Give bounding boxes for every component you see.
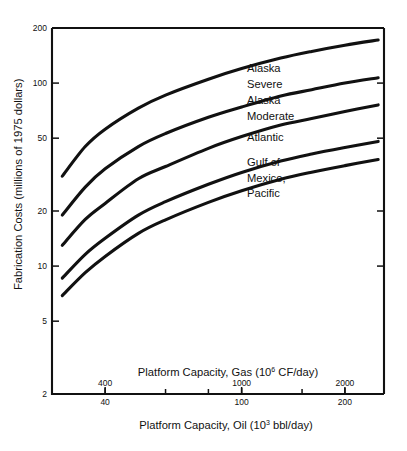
y-tick-label: 20 bbox=[38, 206, 48, 216]
curve-label-alaska-moderate-line2: Moderate bbox=[247, 110, 294, 122]
x-axis-gas-title: Platform Capacity, Gas (106 CF/day) bbox=[138, 366, 319, 378]
x-axis-oil-title-main: Platform Capacity, Oil (10 bbox=[139, 419, 266, 431]
x-tick-gas-label: 400 bbox=[98, 378, 112, 388]
x-axis-oil-title-tail: bbl/day) bbox=[270, 419, 313, 431]
y-tick-label: 5 bbox=[42, 316, 47, 326]
y-tick-label: 200 bbox=[33, 23, 47, 33]
curve-label-alaska-severe: Alaska bbox=[247, 62, 281, 74]
y-tick-label: 50 bbox=[38, 133, 48, 143]
curve-label-gulf-of-mexico-line2: Mexico, bbox=[247, 172, 286, 184]
y-axis-title: Fabrication Costs (millions of 1975 doll… bbox=[12, 78, 24, 290]
curve-label-atlantic: Atlantic bbox=[247, 131, 284, 143]
x-axis-gas-title-tail: CF/day) bbox=[275, 366, 318, 378]
y-tick-label: 2 bbox=[42, 389, 47, 399]
x-tick-oil-label: 100 bbox=[235, 397, 249, 407]
curve-label-gulf-of-mexico-line1: Gulf of bbox=[247, 156, 281, 168]
x-axis-oil-title: Platform Capacity, Oil (103 bbl/day) bbox=[139, 419, 313, 431]
x-axis-gas-title-main: Platform Capacity, Gas (10 bbox=[138, 366, 271, 378]
y-tick-label: 10 bbox=[38, 261, 48, 271]
x-tick-oil-label: 40 bbox=[100, 397, 110, 407]
chart-figure: 20010050201052 40100200 40010002000 Alas… bbox=[0, 0, 407, 451]
curve-label-alaska-severe-line2: Severe bbox=[247, 78, 282, 90]
x-tick-oil-label: 200 bbox=[338, 397, 352, 407]
curve-label-alaska-moderate: Alaska bbox=[247, 94, 281, 106]
y-tick-label: 100 bbox=[33, 78, 47, 88]
x-tick-gas-label: 2000 bbox=[335, 378, 354, 388]
curve-label-pacific: Pacific bbox=[247, 187, 280, 199]
fabrication-costs-line-chart: 20010050201052 40100200 40010002000 Alas… bbox=[0, 0, 407, 451]
x-tick-gas-label: 1000 bbox=[232, 378, 251, 388]
